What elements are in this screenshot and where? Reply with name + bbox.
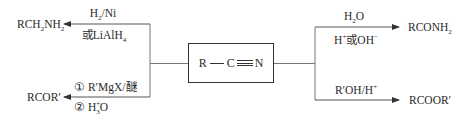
nitrogen-atom: N (255, 56, 264, 71)
amine-product: RCH2NH2 (17, 18, 64, 30)
triple-bond (237, 60, 253, 66)
ester-product: RCOOR′ (409, 94, 451, 106)
nitrile-box: R C N (188, 43, 274, 83)
grignard-step-2: ② H+3O (74, 101, 108, 113)
nitrile-reaction-diagram: R C N RCH2NH2 H2/Ni 或LiAlH4 RCOR′ ① R′Mg… (0, 0, 464, 119)
single-bond (210, 63, 224, 64)
grignard-step-1: ① R′MgX/醚 (74, 81, 137, 93)
alcoholysis-reagent: R′OH/H+ (335, 84, 377, 96)
ketone-product: RCOR′ (27, 91, 61, 103)
amide-product: RCONH2 (408, 21, 452, 33)
carbon-atom: C (227, 56, 235, 71)
hydrolysis-reagent-bottom: H+或OH− (334, 34, 378, 46)
reduction-reagent-top: H2/Ni (90, 7, 117, 19)
hydrolysis-reagent-top: H2O (344, 10, 364, 22)
r-group: R (199, 56, 207, 71)
reduction-reagent-bottom: 或LiAlH4 (82, 29, 127, 41)
